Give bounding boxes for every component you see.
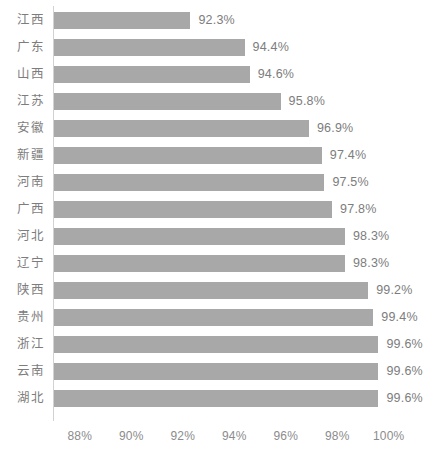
x-tick-label: 96%	[273, 429, 298, 443]
bar-value-label: 98.3%	[353, 250, 389, 277]
bar-row: 安徽96.9%	[0, 115, 434, 142]
bar-value-label: 96.9%	[317, 115, 353, 142]
bar[interactable]	[54, 309, 373, 326]
bar-row: 广西97.8%	[0, 196, 434, 223]
bar-value-label: 99.4%	[381, 304, 417, 331]
bar[interactable]	[54, 147, 322, 164]
bar-category-label: 江苏	[0, 88, 44, 115]
bar-row: 浙江99.6%	[0, 331, 434, 358]
bar-track: 92.3%	[54, 7, 434, 34]
bar-value-label: 95.8%	[289, 88, 325, 115]
bar-category-label: 河北	[0, 223, 44, 250]
bar-value-label: 92.3%	[198, 7, 234, 34]
bar-row: 辽宁98.3%	[0, 250, 434, 277]
bar-track: 97.5%	[54, 169, 434, 196]
bar-row: 云南99.6%	[0, 358, 434, 385]
bar-category-label: 陕西	[0, 277, 44, 304]
bar-value-label: 99.2%	[376, 277, 412, 304]
bar-value-label: 98.3%	[353, 223, 389, 250]
bar[interactable]	[54, 66, 250, 83]
bar-row: 江苏95.8%	[0, 88, 434, 115]
bar-category-label: 河南	[0, 169, 44, 196]
bar-track: 97.8%	[54, 196, 434, 223]
bar-category-label: 云南	[0, 358, 44, 385]
bar-track: 95.8%	[54, 88, 434, 115]
bar-category-label: 山西	[0, 61, 44, 88]
bar-category-label: 新疆	[0, 142, 44, 169]
bar-track: 94.6%	[54, 61, 434, 88]
bar-row: 贵州99.4%	[0, 304, 434, 331]
x-tick-label: 98%	[325, 429, 350, 443]
bar-category-label: 安徽	[0, 115, 44, 142]
x-tick-label: 88%	[67, 429, 92, 443]
bar-track: 99.6%	[54, 358, 434, 385]
bar-category-label: 广西	[0, 196, 44, 223]
bar-row: 山西94.6%	[0, 61, 434, 88]
bar-value-label: 99.6%	[386, 385, 422, 412]
bar[interactable]	[54, 12, 190, 29]
bar[interactable]	[54, 201, 332, 218]
bar-track: 99.6%	[54, 331, 434, 358]
x-tick-label: 94%	[222, 429, 247, 443]
x-tick-label: 100%	[373, 429, 405, 443]
bar-track: 98.3%	[54, 223, 434, 250]
bar-row: 陕西99.2%	[0, 277, 434, 304]
bar[interactable]	[54, 120, 309, 137]
bar-row: 广东94.4%	[0, 34, 434, 61]
bar-track: 99.2%	[54, 277, 434, 304]
bar[interactable]	[54, 174, 324, 191]
bar-value-label: 97.8%	[340, 196, 376, 223]
bar[interactable]	[54, 282, 368, 299]
x-tick-label: 92%	[170, 429, 195, 443]
bar-row: 河北98.3%	[0, 223, 434, 250]
bar-row: 新疆97.4%	[0, 142, 434, 169]
bar-row: 湖北99.6%	[0, 385, 434, 412]
bar-chart: 江西92.3%广东94.4%山西94.6%江苏95.8%安徽96.9%新疆97.…	[0, 0, 434, 468]
bar-value-label: 99.6%	[386, 358, 422, 385]
bar-track: 94.4%	[54, 34, 434, 61]
bar-track: 99.4%	[54, 304, 434, 331]
bar-row: 河南97.5%	[0, 169, 434, 196]
bar-track: 98.3%	[54, 250, 434, 277]
bar[interactable]	[54, 39, 245, 56]
x-axis: 88%90%92%94%96%98%100%	[0, 421, 434, 468]
bar-track: 96.9%	[54, 115, 434, 142]
bar[interactable]	[54, 363, 378, 380]
bar-value-label: 94.4%	[253, 34, 289, 61]
bar-category-label: 广东	[0, 34, 44, 61]
bar[interactable]	[54, 390, 378, 407]
bar[interactable]	[54, 93, 281, 110]
bar-value-label: 99.6%	[386, 331, 422, 358]
bar-value-label: 97.5%	[332, 169, 368, 196]
bar-value-label: 97.4%	[330, 142, 366, 169]
bar[interactable]	[54, 336, 378, 353]
plot-area: 江西92.3%广东94.4%山西94.6%江苏95.8%安徽96.9%新疆97.…	[0, 0, 434, 421]
bar-value-label: 94.6%	[258, 61, 294, 88]
bar-category-label: 江西	[0, 7, 44, 34]
bar[interactable]	[54, 228, 345, 245]
x-tick-label: 90%	[119, 429, 144, 443]
bar-track: 97.4%	[54, 142, 434, 169]
bar-category-label: 湖北	[0, 385, 44, 412]
bar-category-label: 浙江	[0, 331, 44, 358]
bar-track: 99.6%	[54, 385, 434, 412]
bar-row: 江西92.3%	[0, 7, 434, 34]
bar-category-label: 辽宁	[0, 250, 44, 277]
bar-category-label: 贵州	[0, 304, 44, 331]
bar[interactable]	[54, 255, 345, 272]
